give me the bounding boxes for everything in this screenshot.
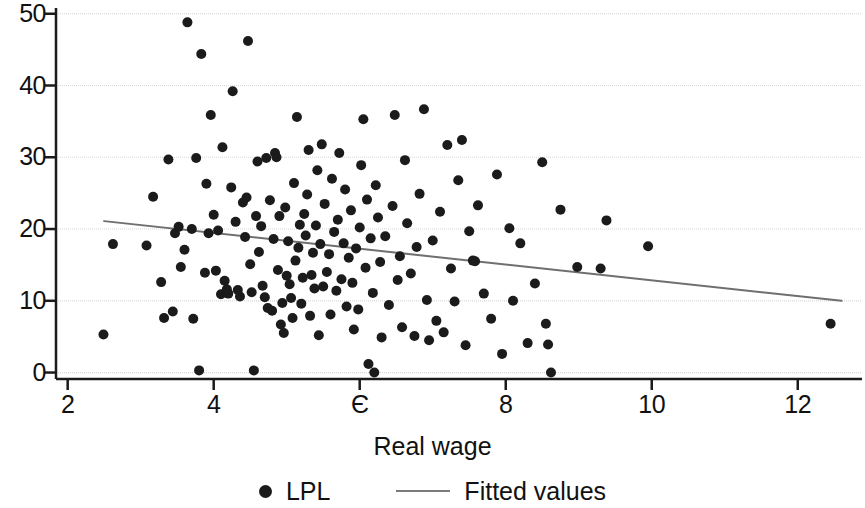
scatter-point — [369, 368, 379, 378]
scatter-point — [293, 243, 303, 253]
scatter-point — [299, 209, 309, 219]
scatter-point — [339, 238, 349, 248]
scatter-point — [329, 227, 339, 237]
scatter-point — [453, 175, 463, 185]
scatter-point — [375, 257, 385, 267]
scatter-point — [402, 218, 412, 228]
x-axis-tick-label: Є — [320, 392, 400, 417]
scatter-point — [596, 263, 606, 273]
scatter-point — [326, 309, 336, 319]
scatter-point — [245, 259, 255, 269]
scatter-point — [446, 263, 456, 273]
scatter-point — [240, 232, 250, 242]
scatter-point — [435, 207, 445, 217]
scatter-point — [327, 174, 337, 184]
scatter-point — [419, 104, 429, 114]
scatter-point — [353, 304, 363, 314]
scatter-point — [276, 319, 286, 329]
scatter-point — [304, 145, 314, 155]
scatter-point — [397, 322, 407, 332]
scatter-point — [523, 338, 533, 348]
x-axis-ticks — [68, 379, 798, 390]
scatter-point — [258, 281, 268, 291]
axis-lines — [56, 8, 862, 379]
scatter-point — [182, 17, 192, 27]
scatter-point — [279, 328, 289, 338]
scatter-point — [179, 245, 189, 255]
x-axis-title: Real wage — [0, 432, 865, 460]
scatter-point — [366, 233, 376, 243]
scatter-point — [409, 331, 419, 341]
scatter-point — [380, 231, 390, 241]
scatter-point — [497, 349, 507, 359]
legend-entry-fitted-values: Fitted values — [396, 479, 606, 504]
scatter-point — [415, 189, 425, 199]
scatter-point — [373, 213, 383, 223]
scatter-point — [486, 314, 496, 324]
scatter-point — [431, 316, 441, 326]
scatter-points-group — [98, 17, 835, 377]
scatter-point — [347, 278, 357, 288]
line-marker-icon — [396, 490, 450, 492]
scatter-point — [344, 253, 354, 263]
scatter-point — [288, 313, 298, 323]
scatter-point — [601, 215, 611, 225]
scatter-point — [428, 236, 438, 246]
x-axis-tick-label: 10 — [612, 392, 692, 417]
scatter-point — [256, 221, 266, 231]
scatter-plot-figure: 01020304050 24Є81012 Real wage LPL Fitte… — [0, 0, 865, 508]
chart-legend: LPL Fitted values — [0, 474, 865, 508]
scatter-point — [546, 368, 556, 378]
scatter-point — [305, 311, 315, 321]
scatter-point — [334, 148, 344, 158]
scatter-point — [324, 249, 334, 259]
scatter-point — [390, 110, 400, 120]
scatter-point — [450, 296, 460, 306]
scatter-point — [289, 178, 299, 188]
scatter-point — [251, 211, 261, 221]
scatter-point — [200, 268, 210, 278]
scatter-point — [342, 302, 352, 312]
scatter-point — [346, 205, 356, 215]
scatter-point — [363, 359, 373, 369]
scatter-point — [194, 365, 204, 375]
scatter-point — [242, 192, 252, 202]
x-axis-tick-label: 8 — [466, 392, 546, 417]
scatter-point — [826, 319, 836, 329]
scatter-point — [362, 195, 372, 205]
scatter-point — [142, 241, 152, 251]
dot-marker-icon — [259, 485, 272, 498]
scatter-point — [98, 330, 108, 340]
scatter-point — [508, 296, 518, 306]
scatter-point — [209, 210, 219, 220]
scatter-point — [163, 154, 173, 164]
scatter-point — [504, 223, 514, 233]
scatter-point — [292, 112, 302, 122]
scatter-point — [148, 192, 158, 202]
scatter-point — [555, 205, 565, 215]
scatter-point — [340, 185, 350, 195]
scatter-point — [333, 215, 343, 225]
scatter-point — [442, 140, 452, 150]
scatter-point — [318, 281, 328, 291]
scatter-point — [470, 256, 480, 266]
scatter-point — [537, 157, 547, 167]
scatter-point — [572, 262, 582, 272]
scatter-point — [307, 270, 317, 280]
scatter-point — [220, 276, 230, 286]
scatter-point — [320, 199, 330, 209]
scatter-point — [223, 289, 233, 299]
scatter-point — [174, 222, 184, 232]
scatter-point — [226, 182, 236, 192]
scatter-point — [439, 327, 449, 337]
scatter-point — [283, 236, 293, 246]
scatter-point — [188, 314, 198, 324]
scatter-point — [217, 142, 227, 152]
scatter-point — [187, 224, 197, 234]
scatter-point — [309, 284, 319, 294]
scatter-point — [243, 36, 253, 46]
scatter-point — [311, 220, 321, 230]
scatter-point — [308, 248, 318, 258]
scatter-point — [312, 165, 322, 175]
scatter-point — [393, 275, 403, 285]
